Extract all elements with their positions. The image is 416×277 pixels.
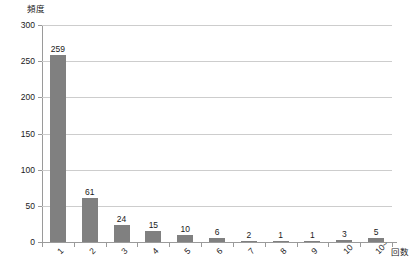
x-axis-tick-mark bbox=[137, 243, 138, 247]
bar bbox=[209, 238, 225, 242]
y-axis-title: 頻度 bbox=[27, 2, 45, 14]
y-axis-tick-label: 150 bbox=[5, 129, 35, 139]
y-axis-tick-label: 50 bbox=[5, 201, 35, 211]
x-axis-tick-mark bbox=[42, 243, 43, 247]
x-axis-tick-mark bbox=[297, 243, 298, 247]
bar-value-label: 5 bbox=[359, 227, 393, 237]
bar bbox=[304, 241, 320, 243]
gridline bbox=[42, 97, 392, 98]
x-axis-tick-label: 8 bbox=[278, 246, 288, 256]
bar-value-label: 15 bbox=[136, 220, 170, 230]
plot-area: 25961241510621135 bbox=[42, 25, 392, 242]
bar bbox=[145, 231, 161, 242]
bar-value-label: 259 bbox=[41, 44, 75, 54]
axis-baseline bbox=[42, 242, 397, 243]
bar-value-label: 61 bbox=[73, 187, 107, 197]
bar-value-label: 1 bbox=[264, 230, 298, 240]
bar bbox=[177, 235, 193, 242]
gridline bbox=[42, 25, 392, 26]
x-axis-tick-label: 9 bbox=[309, 246, 319, 256]
x-axis-tick-label: 2 bbox=[87, 246, 97, 256]
gridline bbox=[42, 134, 392, 135]
bar-value-label: 1 bbox=[295, 230, 329, 240]
bar-value-label: 10 bbox=[168, 224, 202, 234]
x-axis-tick-mark bbox=[328, 243, 329, 247]
bar bbox=[273, 241, 289, 243]
y-axis-tick-label: 250 bbox=[5, 56, 35, 66]
bar-value-label: 2 bbox=[232, 230, 266, 240]
bar bbox=[336, 240, 352, 242]
bar-value-label: 6 bbox=[200, 227, 234, 237]
gridline bbox=[42, 170, 392, 171]
x-axis-tick-label: 7 bbox=[246, 246, 256, 256]
bar-value-label: 24 bbox=[105, 214, 139, 224]
y-axis-tick-label: 300 bbox=[5, 20, 35, 30]
x-axis-tick-mark bbox=[201, 243, 202, 247]
x-axis-tick-mark bbox=[74, 243, 75, 247]
bar bbox=[82, 198, 98, 242]
x-axis-tick-label: 10 bbox=[341, 242, 355, 256]
x-axis-tick-label: 6 bbox=[214, 246, 224, 256]
y-axis-tick-label: 100 bbox=[5, 165, 35, 175]
bar bbox=[114, 225, 130, 242]
y-axis-tick-label: 0 bbox=[5, 237, 35, 247]
gridline bbox=[42, 61, 392, 62]
x-axis-tick-label: 3 bbox=[119, 246, 129, 256]
x-axis-tick-mark bbox=[392, 243, 393, 247]
chart-screenshot: 頻度 回数 050100150200250300 259612415106211… bbox=[0, 0, 416, 277]
bar-value-label: 3 bbox=[327, 229, 361, 239]
x-axis-tick-label: 4 bbox=[150, 246, 160, 256]
x-axis-tick-mark bbox=[233, 243, 234, 247]
y-axis-tick-label: 200 bbox=[5, 92, 35, 102]
x-axis-tick-label: 1 bbox=[55, 246, 65, 256]
x-axis-tick-mark bbox=[265, 243, 266, 247]
bar bbox=[50, 55, 66, 242]
x-axis-title: 回数 bbox=[391, 245, 409, 257]
x-axis-tick-mark bbox=[106, 243, 107, 247]
x-axis-tick-mark bbox=[360, 243, 361, 247]
bar bbox=[241, 241, 257, 243]
x-axis-tick-label: 5 bbox=[182, 246, 192, 256]
x-axis-tick-mark bbox=[169, 243, 170, 247]
